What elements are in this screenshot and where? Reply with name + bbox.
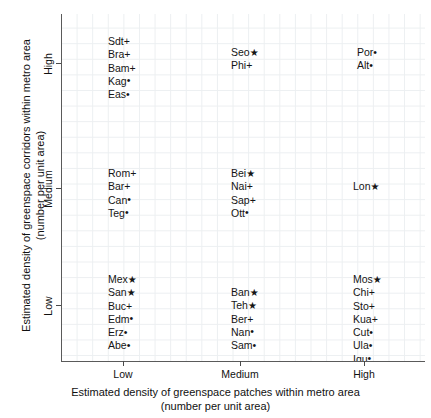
- data-point: Mos★: [353, 273, 382, 286]
- data-point: Ber+: [231, 313, 259, 326]
- data-point: Alt•: [357, 59, 377, 72]
- data-point: Iqu•: [353, 353, 382, 361]
- data-group-medium-low: Ban★Teh★Ber+Nan•Sam•: [231, 286, 259, 352]
- marker-plus-icon: +: [124, 48, 130, 61]
- x-tick-label-low: Low: [83, 368, 163, 380]
- data-point: Bra+: [108, 48, 136, 61]
- x-axis-title: Estimated density of greenspace patches …: [0, 386, 431, 413]
- marker-plus-icon: +: [246, 59, 252, 72]
- marker-plus-icon: +: [124, 180, 130, 193]
- marker-star-icon: ★: [248, 299, 257, 312]
- data-point-label: Can: [108, 194, 127, 206]
- data-point: Abe•: [108, 339, 137, 352]
- data-point-label: Rom: [108, 167, 130, 179]
- data-point-label: Phi: [231, 59, 246, 71]
- data-point-label: Iqu: [353, 353, 368, 361]
- data-point: Buc+: [108, 300, 137, 313]
- data-point-label: Sto: [353, 300, 369, 312]
- data-point-label: Sam: [231, 339, 253, 351]
- marker-dot-icon: •: [253, 339, 257, 352]
- marker-plus-icon: +: [130, 62, 136, 75]
- marker-star-icon: ★: [250, 46, 259, 59]
- data-group-high-medium: Lon★: [353, 180, 380, 193]
- marker-plus-icon: +: [369, 286, 375, 299]
- data-group-high-high: Por•Alt•: [357, 46, 377, 73]
- data-point: Phi+: [231, 59, 259, 72]
- data-point-label: Teh: [231, 299, 248, 311]
- data-point-label: Ban: [231, 286, 250, 298]
- marker-dot-icon: •: [130, 312, 134, 325]
- data-point: Edm•: [108, 313, 137, 326]
- data-point: Eas•: [108, 88, 136, 101]
- data-point: Por•: [357, 46, 377, 59]
- marker-dot-icon: •: [373, 46, 377, 59]
- marker-plus-icon: +: [124, 35, 130, 48]
- x-axis-line: [61, 361, 425, 362]
- data-point-label: Seo: [231, 46, 250, 58]
- data-group-low-medium: Rom+Bar+Can•Teg•: [108, 167, 136, 220]
- marker-dot-icon: •: [368, 352, 372, 361]
- y-tick-label-low: Low: [42, 276, 54, 336]
- data-group-medium-medium: Bei★Nai+Sap+Ott•: [231, 167, 256, 220]
- marker-dot-icon: •: [127, 339, 131, 352]
- marker-dot-icon: •: [127, 193, 131, 206]
- data-point-label: Ber: [231, 313, 247, 325]
- data-point-label: Kua: [353, 313, 372, 325]
- y-tick-label-high: High: [42, 34, 54, 94]
- marker-plus-icon: +: [126, 300, 132, 313]
- data-point-label: Mos: [353, 273, 373, 285]
- data-point-label: Bra: [108, 48, 124, 60]
- data-point-label: Chi: [353, 286, 369, 298]
- data-point: Mex★: [108, 273, 137, 286]
- marker-star-icon: ★: [128, 273, 137, 286]
- data-point: Teh★: [231, 299, 259, 312]
- x-tick-mark-high: [364, 361, 365, 366]
- data-group-high-low: Mos★Chi+Sto+Kua+Cut•Ula•Iqu•Rah•: [353, 273, 382, 361]
- data-point: Teg•: [108, 207, 136, 220]
- x-tick-mark-low: [123, 361, 124, 366]
- data-group-low-high: Sdt+Bra+Bam+Kag•Eas•: [108, 35, 136, 101]
- data-point-label: San: [108, 286, 127, 298]
- marker-plus-icon: +: [130, 167, 136, 180]
- data-point: Lon★: [353, 180, 380, 193]
- data-point: Kag•: [108, 75, 136, 88]
- data-point: Nai+: [231, 180, 256, 193]
- data-point-label: Edm: [108, 313, 130, 325]
- data-point-label: Nan: [231, 326, 250, 338]
- marker-plus-icon: +: [250, 194, 256, 207]
- marker-dot-icon: •: [245, 206, 249, 219]
- marker-plus-icon: +: [247, 180, 253, 193]
- marker-star-icon: ★: [246, 167, 255, 180]
- marker-dot-icon: •: [125, 206, 129, 219]
- marker-star-icon: ★: [250, 286, 259, 299]
- data-point-label: Alt: [357, 59, 369, 71]
- data-point-label: Ula: [353, 339, 369, 351]
- data-point: Sto+: [353, 300, 382, 313]
- y-axis-title-container: Estimated density of greenspace corridor…: [0, 0, 46, 360]
- data-point: Seo★: [231, 46, 259, 59]
- data-point: Nan•: [231, 326, 259, 339]
- data-point-label: Kag: [108, 75, 127, 87]
- data-point: Can•: [108, 194, 136, 207]
- data-point: Erz•: [108, 326, 137, 339]
- data-point: Ban★: [231, 286, 259, 299]
- x-tick-label-medium: Medium: [200, 368, 280, 380]
- data-point: Cut•: [353, 326, 382, 339]
- marker-dot-icon: •: [369, 326, 373, 339]
- marker-star-icon: ★: [371, 180, 380, 193]
- data-point: Sam•: [231, 339, 259, 352]
- data-point-label: Sap: [231, 194, 250, 206]
- marker-dot-icon: •: [127, 74, 131, 87]
- data-point-label: Bei: [231, 167, 246, 179]
- data-point-label: Ott: [231, 207, 245, 219]
- data-point-label: Buc: [108, 300, 126, 312]
- data-point: Ott•: [231, 207, 256, 220]
- data-point-label: Bam: [108, 62, 130, 74]
- marker-star-icon: ★: [127, 286, 136, 299]
- x-tick-mark-medium: [240, 361, 241, 366]
- data-point-label: Por: [357, 46, 373, 58]
- marker-star-icon: ★: [373, 273, 382, 286]
- marker-dot-icon: •: [369, 59, 373, 72]
- data-point: Sdt+: [108, 35, 136, 48]
- data-point-label: Eas: [108, 88, 126, 100]
